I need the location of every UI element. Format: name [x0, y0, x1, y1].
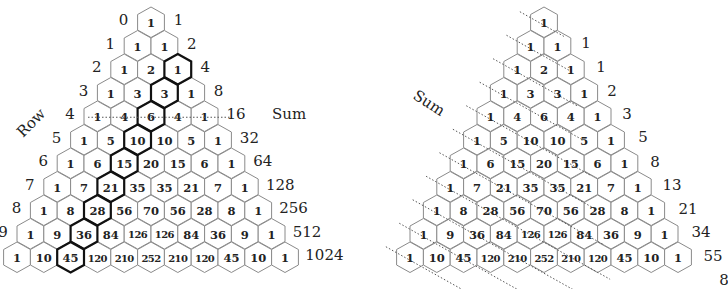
cell-value: 28: [482, 204, 498, 218]
cell-value: 210: [115, 253, 135, 264]
cell-value: 5: [500, 134, 508, 148]
cell-value: 35: [130, 181, 146, 195]
row-number-label: 7: [25, 176, 35, 194]
cell-value: 2: [147, 63, 155, 77]
cell-value: 7: [473, 181, 481, 195]
cell-value: 1: [446, 181, 454, 195]
row-number-label: 5: [52, 129, 62, 147]
row-number-label: 6: [38, 152, 48, 170]
row-sum-label: 1: [174, 11, 184, 29]
cell-value: 35: [156, 181, 172, 195]
left-sum-axis-label: Sum: [272, 105, 306, 123]
cell-value: 8: [460, 204, 468, 218]
cell-value: 210: [561, 253, 581, 264]
cell-value: 1: [187, 87, 195, 101]
cell-value: 1: [268, 228, 276, 242]
cell-value: 21: [496, 181, 512, 195]
diagonal-sum-label: 13: [662, 176, 681, 194]
cell-value: 1: [460, 157, 468, 171]
cell-value: 56: [509, 204, 525, 218]
cell-value: 10: [429, 251, 445, 265]
cell-value: 7: [607, 181, 615, 195]
diagonal-sum-label: 55: [703, 247, 722, 265]
cell-value: 6: [486, 157, 494, 171]
cell-value: 10: [36, 251, 52, 265]
cell-value: 5: [187, 134, 195, 148]
row-sum-label: 16: [226, 105, 245, 123]
diagonal-sum-label: 5: [638, 128, 648, 146]
diagonal-sum-label: 2: [607, 82, 617, 100]
cell-value: 15: [563, 157, 579, 171]
cell-value: 45: [63, 251, 79, 265]
cell-value: 1: [80, 134, 88, 148]
cell-value: 1: [674, 251, 682, 265]
diagonal-sum-label: 8: [650, 153, 660, 171]
cell-value: 21: [183, 181, 199, 195]
cell-value: 1: [527, 40, 535, 54]
cell-value: 1: [486, 110, 494, 124]
pascal-triangle-fibonacci-diagonals: 1123581321345581111211331146411510105116…: [386, 7, 728, 289]
cell-value: 9: [241, 228, 249, 242]
cell-value: 120: [481, 253, 501, 264]
row-sum-label: 4: [200, 58, 210, 76]
row-sum-label: 8: [214, 82, 224, 100]
cell-value: 1: [500, 87, 508, 101]
cell-value: 3: [134, 87, 142, 101]
cell-value: 45: [456, 251, 472, 265]
cell-value: 1: [241, 181, 249, 195]
diagonal-sum-label: 21: [678, 200, 697, 218]
cell-value: 10: [549, 134, 565, 148]
cell-value: 36: [469, 228, 485, 242]
cell-value: 1: [120, 63, 128, 77]
cell-value: 10: [643, 251, 659, 265]
cell-value: 10: [250, 251, 266, 265]
cell-value: 84: [496, 228, 512, 242]
cell-value: 1: [134, 40, 142, 54]
cell-value: 36: [210, 228, 226, 242]
cell-value: 2: [540, 63, 548, 77]
cell-value: 56: [170, 204, 186, 218]
cell-value: 1: [254, 204, 262, 218]
cell-value: 36: [603, 228, 619, 242]
cell-value: 120: [88, 253, 108, 264]
cell-value: 5: [107, 134, 115, 148]
cell-value: 21: [576, 181, 592, 195]
cell-value: 252: [534, 253, 554, 264]
cell-value: 84: [183, 228, 199, 242]
cell-value: 3: [160, 87, 168, 101]
cell-value: 5: [580, 134, 588, 148]
diagonal-sum-label: 1: [581, 34, 591, 52]
cell-value: 1: [93, 110, 101, 124]
row-number-label: 1: [105, 35, 115, 53]
cell-value: 6: [540, 110, 548, 124]
cell-value: 1: [433, 204, 441, 218]
row-axis-label: Row: [13, 105, 49, 141]
cell-value: 56: [563, 204, 579, 218]
cell-value: 35: [549, 181, 565, 195]
cell-value: 4: [513, 110, 521, 124]
row-sum-label: 512: [293, 223, 322, 241]
cell-value: 210: [168, 253, 188, 264]
cell-value: 1: [580, 87, 588, 101]
cell-value: 9: [634, 228, 642, 242]
cell-value: 1: [513, 63, 521, 77]
cell-value: 126: [128, 229, 148, 240]
row-sum-label: 32: [240, 129, 259, 147]
cell-value: 210: [508, 253, 528, 264]
cell-value: 36: [76, 228, 92, 242]
cell-value: 1: [40, 204, 48, 218]
cell-value: 1: [634, 181, 642, 195]
cell-value: 252: [141, 253, 161, 264]
diagonal-sum-label: 3: [622, 105, 632, 123]
cell-value: 1: [281, 251, 289, 265]
cell-value: 1: [174, 63, 182, 77]
cell-value: 28: [89, 204, 105, 218]
diagonal-sum-label: 34: [691, 223, 710, 241]
pascal-triangle-figure: 1111211331146411510105116152015611721353…: [0, 0, 728, 289]
cell-value: 1: [647, 204, 655, 218]
row-sum-label: 64: [253, 152, 272, 170]
pascal-triangle-row-sums: 1111211331146411510105116152015611721353…: [0, 7, 343, 273]
cell-value: 126: [155, 229, 175, 240]
cell-value: 35: [523, 181, 539, 195]
cell-value: 126: [548, 229, 568, 240]
